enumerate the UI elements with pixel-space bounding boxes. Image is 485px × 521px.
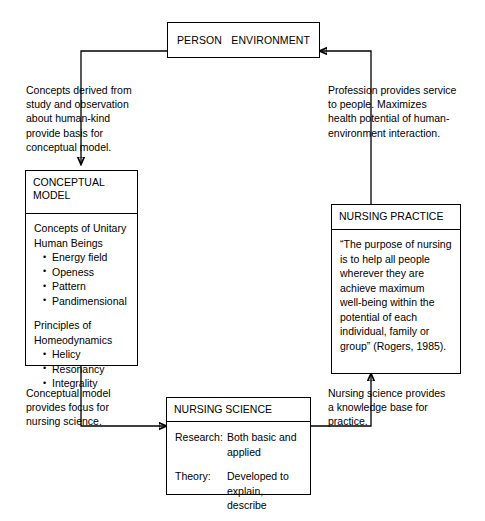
diagram-canvas: PERSON ENVIRONMENT Concepts derived from…: [0, 0, 485, 521]
list-item: Resonancy: [43, 362, 130, 377]
row-key: Theory:: [175, 469, 227, 513]
environment-label: ENVIRONMENT: [231, 34, 310, 46]
unitary-title-line2: Human Beings: [34, 236, 130, 251]
list-item: Energy field: [43, 250, 130, 265]
list-item: Pandimensional: [43, 294, 130, 309]
note-concepts-derived: Concepts derived from study and observat…: [26, 83, 161, 154]
row-value: Developed to explain, describe: [227, 469, 303, 513]
body-spacer: [34, 308, 130, 318]
conceptual-model-header: CONCEPTUAL MODEL: [26, 171, 137, 214]
nursing-science-box: NURSING SCIENCE Research: Both basic and…: [166, 397, 311, 495]
unitary-concepts-list: Energy field Openess Pattern Pandimensio…: [34, 250, 130, 308]
conceptual-model-header-line2: MODEL: [33, 189, 130, 202]
row-value: Both basic and applied: [227, 430, 303, 459]
unitary-human-beings-title: Concepts of Unitary Human Beings: [34, 221, 130, 250]
note-model-provides-focus: Conceptual model provides focus for nurs…: [26, 386, 156, 429]
homeodynamics-title-line1: Principles of: [34, 318, 130, 333]
nursing-practice-box: NURSING PRACTICE “The purpose of nursing…: [331, 204, 461, 374]
nursing-science-body: Research: Both basic and applied Theory:…: [167, 422, 310, 521]
list-item: Openess: [43, 265, 130, 280]
conceptual-model-box: CONCEPTUAL MODEL Concepts of Unitary Hum…: [25, 170, 138, 366]
homeodynamics-principles-list: Helicy Resonancy Integrality: [34, 347, 130, 391]
nursing-science-header: NURSING SCIENCE: [167, 398, 310, 422]
person-environment-box: PERSON ENVIRONMENT: [167, 22, 320, 58]
note-knowledge-base: Nursing science provides a knowledge bas…: [328, 386, 478, 429]
conceptual-model-body: Concepts of Unitary Human Beings Energy …: [26, 214, 137, 398]
nursing-practice-quote: “The purpose of nursing is to help all p…: [332, 230, 460, 360]
person-label: PERSON: [177, 34, 222, 46]
nursing-science-row: Research: Both basic and applied: [175, 430, 303, 459]
homeodynamics-title-line2: Homeodynamics: [34, 333, 130, 348]
unitary-title-line1: Concepts of Unitary: [34, 221, 130, 236]
homeodynamics-title: Principles of Homeodynamics: [34, 318, 130, 347]
nursing-practice-header: NURSING PRACTICE: [332, 205, 460, 230]
row-key: Research:: [175, 430, 227, 459]
note-profession-provides-service: Profession provides service to people. M…: [328, 83, 480, 140]
list-item: Pattern: [43, 279, 130, 294]
list-item: Helicy: [43, 347, 130, 362]
conceptual-model-header-line1: CONCEPTUAL: [33, 176, 130, 189]
nursing-science-row: Theory: Developed to explain, describe: [175, 469, 303, 513]
row-spacer: [175, 461, 303, 469]
